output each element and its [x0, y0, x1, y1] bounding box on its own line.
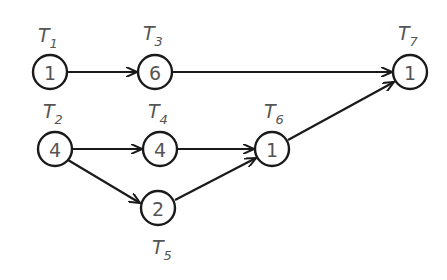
node-t7: 1 T7 [393, 22, 427, 89]
node-t5: 2 T5 [141, 191, 175, 263]
task-label: T2 [43, 100, 63, 127]
edge-t5-t6 [175, 158, 256, 200]
node-value: 6 [149, 62, 161, 84]
node-value: 2 [152, 198, 164, 220]
task-label: T3 [143, 22, 163, 49]
node-t3: 6 T3 [138, 22, 172, 89]
node-value: 4 [154, 139, 166, 161]
node-t2: 4 T2 [38, 100, 72, 166]
node-value: 1 [404, 62, 416, 84]
task-label: T4 [148, 100, 168, 127]
node-value: 1 [44, 62, 56, 84]
edge-t6-t7 [288, 82, 394, 140]
task-label: T1 [38, 24, 58, 51]
task-graph: 1 T1 6 T3 1 T7 4 T2 4 T4 1 T6 2 T5 [0, 0, 447, 280]
node-value: 4 [49, 139, 61, 161]
node-t1: 1 T1 [33, 24, 67, 89]
node-value: 1 [266, 139, 278, 161]
node-t6: 1 T6 [255, 100, 289, 166]
task-label: T7 [398, 22, 419, 49]
edge-t2-t5 [68, 160, 140, 203]
task-label: T6 [264, 100, 284, 127]
task-label: T5 [152, 236, 172, 263]
node-t4: 4 T4 [143, 100, 177, 166]
